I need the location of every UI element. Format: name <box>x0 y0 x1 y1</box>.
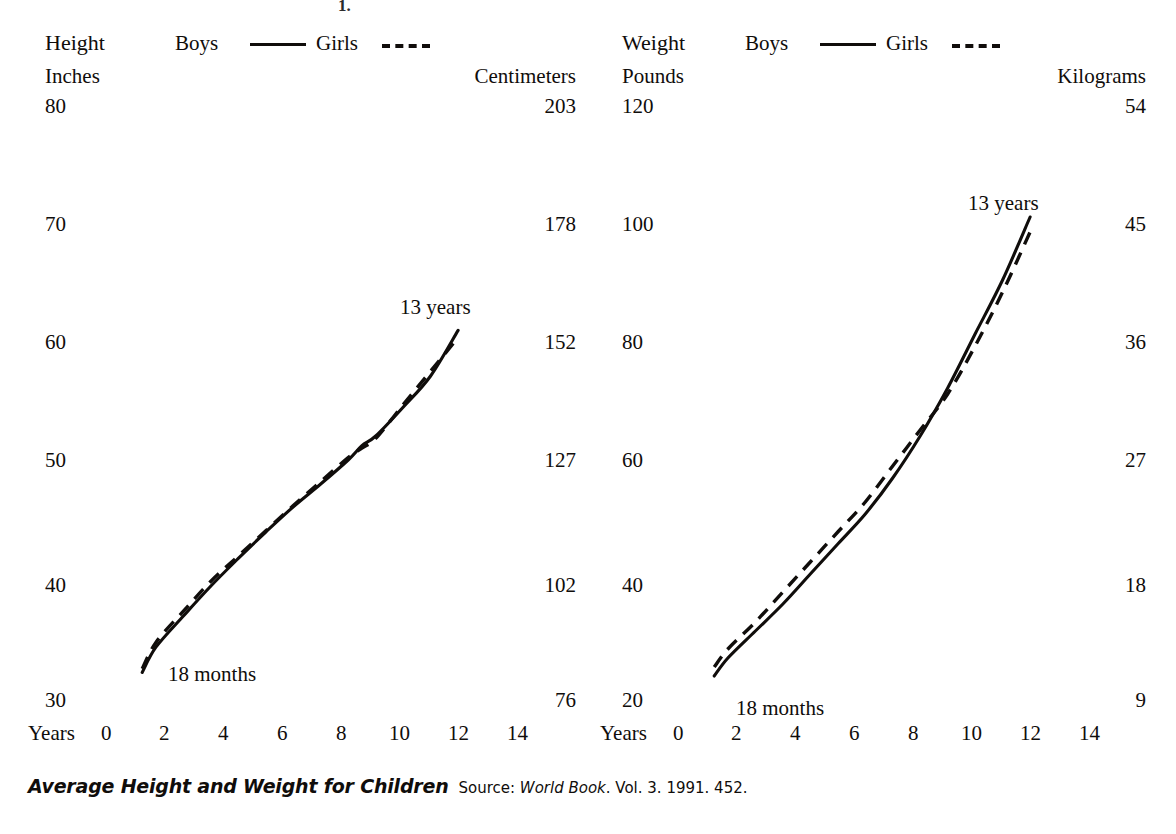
axis-title-years-height: Years <box>28 723 75 744</box>
xtick-weight-14: 14 <box>1079 723 1100 744</box>
xtick-height-4: 4 <box>218 723 229 744</box>
caption-source-prefix: Source: <box>458 779 515 797</box>
curve-weight-girls <box>714 232 1030 667</box>
annotation-18-months-weight: 18 months <box>736 698 824 719</box>
caption-source-work: World Book <box>520 779 606 797</box>
ytick-lb-80: 80 <box>622 332 643 353</box>
annotation-13-years-height: 13 years <box>400 297 471 318</box>
curve-height-boys <box>142 330 458 672</box>
ytick-cm-178: 178 <box>476 214 576 235</box>
ytick-inches-60: 60 <box>45 332 66 353</box>
panel-title-height: Height <box>45 32 105 54</box>
xtick-weight-8: 8 <box>908 723 919 744</box>
caption-source-rest: . Vol. 3. 1991. 452. <box>606 779 748 797</box>
ytick-kg-54: 54 <box>1056 96 1146 117</box>
curve-height-girls <box>142 338 458 669</box>
figure-caption: Average Height and Weight for Children S… <box>28 775 748 797</box>
annotation-18-months-height: 18 months <box>168 664 256 685</box>
xtick-weight-12: 12 <box>1020 723 1041 744</box>
xtick-weight-2: 2 <box>731 723 742 744</box>
ytick-lb-120: 120 <box>622 96 654 117</box>
ytick-inches-70: 70 <box>45 214 66 235</box>
axis-title-kilograms: Kilograms <box>950 66 1146 87</box>
xtick-weight-10: 10 <box>961 723 982 744</box>
xtick-height-8: 8 <box>336 723 347 744</box>
ytick-lb-60: 60 <box>622 450 643 471</box>
legend-swatch-boys-height <box>250 43 306 46</box>
xtick-weight-6: 6 <box>849 723 860 744</box>
growth-charts-figure: 1. Height Boys Girls Inches Centimeters … <box>0 0 1176 834</box>
annotation-13-years-weight: 13 years <box>968 193 1039 214</box>
ytick-kg-18: 18 <box>1056 575 1146 596</box>
ytick-lb-100: 100 <box>622 214 654 235</box>
legend-label-girls-height: Girls <box>316 33 358 54</box>
xtick-height-10: 10 <box>389 723 410 744</box>
ytick-inches-80: 80 <box>45 96 66 117</box>
legend-swatch-girls-height <box>382 44 430 48</box>
legend-label-boys-height: Boys <box>175 33 218 54</box>
panel-title-weight: Weight <box>622 32 685 54</box>
axis-title-years-weight: Years <box>600 723 647 744</box>
curve-weight-boys <box>714 217 1030 676</box>
ytick-inches-30: 30 <box>45 690 66 711</box>
ytick-kg-27: 27 <box>1056 450 1146 471</box>
xtick-height-6: 6 <box>277 723 288 744</box>
axis-title-inches: Inches <box>45 66 100 87</box>
ytick-cm-152: 152 <box>476 332 576 353</box>
ytick-inches-50: 50 <box>45 450 66 471</box>
curves-layer <box>0 0 1176 834</box>
ytick-kg-36: 36 <box>1056 332 1146 353</box>
legend-swatch-boys-weight <box>820 43 876 46</box>
xtick-weight-0: 0 <box>673 723 684 744</box>
ytick-inches-40: 40 <box>45 575 66 596</box>
ytick-lb-40: 40 <box>622 575 643 596</box>
scan-artifact: 1. <box>338 0 351 16</box>
axis-title-centimeters: Centimeters <box>365 66 576 87</box>
xtick-height-2: 2 <box>159 723 170 744</box>
ytick-cm-203: 203 <box>476 96 576 117</box>
ytick-cm-76: 76 <box>476 690 576 711</box>
xtick-height-14: 14 <box>507 723 528 744</box>
axis-title-pounds: Pounds <box>622 66 684 87</box>
legend-label-boys-weight: Boys <box>745 33 788 54</box>
ytick-kg-45: 45 <box>1056 214 1146 235</box>
legend-swatch-girls-weight <box>952 44 1000 48</box>
ytick-cm-102: 102 <box>476 575 576 596</box>
legend-label-girls-weight: Girls <box>886 33 928 54</box>
caption-source: Source: World Book. Vol. 3. 1991. 452. <box>458 779 747 797</box>
xtick-height-12: 12 <box>448 723 469 744</box>
caption-title: Average Height and Weight for Children <box>28 775 448 797</box>
xtick-height-0: 0 <box>101 723 112 744</box>
xtick-weight-4: 4 <box>790 723 801 744</box>
ytick-lb-20: 20 <box>622 690 643 711</box>
ytick-kg-9: 9 <box>1056 690 1146 711</box>
ytick-cm-127: 127 <box>476 450 576 471</box>
